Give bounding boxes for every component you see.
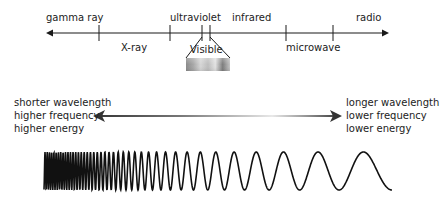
label-microwave: microwave [286, 42, 340, 54]
long-wavelength-properties: longer wavelength lower frequency lower … [346, 96, 439, 135]
spectrum-axis [46, 25, 389, 41]
label-ultraviolet: ultraviolet [170, 12, 221, 24]
longer-wavelength-text: longer wavelength [346, 96, 439, 109]
label-radio: radio [356, 12, 381, 24]
chirp-wave [44, 152, 392, 190]
label-x-ray: X-ray [121, 42, 147, 54]
shorter-wavelength-text: shorter wavelength [14, 96, 111, 109]
right-arrowhead-icon [382, 30, 389, 37]
lower-energy-text: lower energy [346, 122, 439, 135]
label-infrared: infrared [232, 12, 271, 24]
higher-energy-text: higher energy [14, 122, 111, 135]
label-gamma-ray: gamma ray [46, 12, 103, 24]
wavelength-arrow [93, 110, 342, 122]
left-arrowhead-icon [46, 30, 53, 37]
label-visible: Visible [190, 44, 223, 56]
short-wavelength-properties: shorter wavelength higher frequency high… [14, 96, 111, 135]
lower-frequency-text: lower frequency [346, 109, 439, 122]
higher-frequency-text: higher frequency [14, 109, 111, 122]
